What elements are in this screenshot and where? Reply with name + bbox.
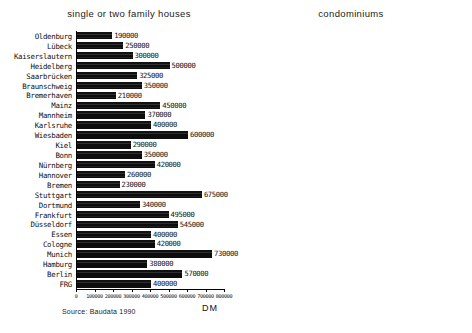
- bar: [77, 151, 142, 158]
- bar: [77, 250, 212, 257]
- bar-value-label: 420000: [157, 240, 181, 247]
- category-label: Braunschweig: [22, 81, 72, 90]
- category-label: Karlsruhe: [35, 121, 72, 130]
- category-label: Düsseldorf: [31, 220, 73, 229]
- bar-row: Essen400000: [76, 229, 224, 239]
- bar: [77, 240, 155, 247]
- bar-with-value: 400000: [77, 280, 177, 287]
- bar-value-label: 350000: [144, 82, 168, 89]
- bar-with-value: 730000: [77, 250, 238, 257]
- bar-value-label: 325000: [139, 72, 163, 79]
- bar-value-label: 400000: [153, 121, 177, 128]
- category-label: Dortmund: [39, 200, 72, 209]
- bar-row: Berlin570000: [76, 269, 224, 279]
- bar-value-label: 400000: [153, 280, 177, 287]
- bar-row: Frankfurt495000: [76, 210, 224, 220]
- bar-value-label: 250000: [125, 42, 149, 49]
- bar-with-value: 420000: [77, 161, 181, 168]
- bar-with-value: 230000: [77, 181, 145, 188]
- category-label: Mainz: [51, 101, 72, 110]
- category-label: Munich: [47, 250, 72, 259]
- bar: [77, 181, 120, 188]
- bar-with-value: 290000: [77, 141, 157, 148]
- bar: [77, 211, 169, 218]
- bar-with-value: 570000: [77, 270, 208, 277]
- category-label: Bonn: [55, 151, 72, 160]
- bar-value-label: 300000: [135, 52, 159, 59]
- bar-value-label: 675000: [204, 191, 228, 198]
- bar-row: Karlsruhe400000: [76, 120, 224, 130]
- bar-value-label: 495000: [171, 211, 195, 218]
- category-label: Kiel: [55, 141, 72, 150]
- x-axis-tick-label: 600000: [179, 293, 195, 299]
- bar-value-label: 370000: [147, 111, 171, 118]
- x-axis-tick-label: 100000: [86, 293, 102, 299]
- bar: [77, 171, 125, 178]
- bar-value-label: 450000: [162, 102, 186, 109]
- x-axis-unit-label-left: DM: [202, 303, 218, 313]
- bar-rows-left: Oldenburg190000Lübeck250000Kaiserslauter…: [76, 31, 224, 289]
- bar: [77, 141, 131, 148]
- category-label: Mannheim: [39, 111, 72, 120]
- bar-value-label: 380000: [149, 260, 173, 267]
- bar: [77, 82, 142, 89]
- bar: [77, 92, 116, 99]
- category-label: Frankfurt: [35, 210, 72, 219]
- bar-row: Düsseldorf545000: [76, 220, 224, 230]
- bar: [77, 62, 170, 69]
- bar-value-label: 500000: [172, 62, 196, 69]
- bar: [77, 52, 133, 59]
- bar-value-label: 290000: [133, 141, 157, 148]
- bar-row: Munich730000: [76, 249, 224, 259]
- bar-row: Bonn350000: [76, 150, 224, 160]
- bar-with-value: 190000: [77, 32, 138, 39]
- bar-row: Bremen230000: [76, 180, 224, 190]
- chart-title-right: condominiums: [236, 8, 472, 19]
- bar: [77, 161, 155, 168]
- x-axis-tick-label: 800000: [216, 293, 232, 299]
- bar-with-value: 325000: [77, 72, 163, 79]
- bar-with-value: 380000: [77, 260, 173, 267]
- bar-row: Oldenburg190000: [76, 31, 224, 41]
- category-label: Oldenburg: [35, 31, 72, 40]
- bar: [77, 131, 188, 138]
- bar-row: Heidelberg500000: [76, 61, 224, 71]
- two-panel-bar-chart-figure: single or two family houses Oldenburg190…: [0, 0, 472, 333]
- bar-row: Hamburg380000: [76, 259, 224, 269]
- bar-with-value: 675000: [77, 191, 228, 198]
- bar-row: Cologne420000: [76, 239, 224, 249]
- bar: [77, 280, 151, 287]
- bar-value-label: 420000: [157, 161, 181, 168]
- bar-with-value: 300000: [77, 52, 158, 59]
- bar-row: Lübeck250000: [76, 41, 224, 51]
- bar-with-value: 600000: [77, 131, 214, 138]
- bar-row: Saarbrücken325000: [76, 71, 224, 81]
- bar-row: Bremerhaven210000: [76, 91, 224, 101]
- bar-row: Stuttgart675000: [76, 190, 224, 200]
- x-axis-tick-label: 0: [75, 293, 78, 299]
- bar: [77, 221, 178, 228]
- bar-value-label: 230000: [122, 181, 146, 188]
- bar-value-label: 350000: [144, 151, 168, 158]
- bar-with-value: 400000: [77, 231, 177, 238]
- bar: [77, 111, 145, 118]
- bar-with-value: 545000: [77, 221, 204, 228]
- bar-with-value: 340000: [77, 201, 166, 208]
- bar-row: Nürnberg420000: [76, 160, 224, 170]
- bar-with-value: 350000: [77, 151, 168, 158]
- bar: [77, 32, 112, 39]
- bar-value-label: 190000: [114, 32, 138, 39]
- bar-value-label: 260000: [127, 171, 151, 178]
- x-axis-tick-label: 400000: [142, 293, 158, 299]
- category-label: Bremerhaven: [26, 91, 72, 100]
- bar-with-value: 370000: [77, 111, 171, 118]
- bar-value-label: 210000: [118, 92, 142, 99]
- bar-value-label: 570000: [184, 270, 208, 277]
- bar-with-value: 450000: [77, 102, 186, 109]
- bar-with-value: 400000: [77, 121, 177, 128]
- bar-row: Mainz450000: [76, 100, 224, 110]
- x-axis-tick-label: 500000: [160, 293, 176, 299]
- x-axis-tick-label: 200000: [105, 293, 121, 299]
- bar: [77, 201, 140, 208]
- bar-with-value: 260000: [77, 171, 151, 178]
